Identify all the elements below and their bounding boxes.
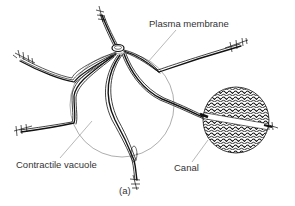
contractile-vacuole-diagram: Plasma membrane Contractile vacuole Cana… <box>0 0 295 206</box>
leader-plasma-membrane <box>148 30 176 62</box>
figure-caption: (a) <box>119 185 131 196</box>
canal-arm-right-lower <box>122 54 206 119</box>
leader-canal <box>192 140 208 162</box>
canal-arm-upper-left <box>20 52 116 83</box>
label-plasma-membrane: Plasma membrane <box>149 19 229 29</box>
diagram-illustration <box>0 0 295 206</box>
canal-arm-upper-right <box>124 44 241 73</box>
label-contractile-vacuole: Contractile vacuole <box>16 160 97 170</box>
pore <box>112 45 124 52</box>
leader-contractile-vacuole <box>60 121 92 158</box>
canal-arms <box>20 14 241 180</box>
label-canal: Canal <box>174 163 199 173</box>
magnified-canal-section <box>200 84 275 159</box>
canal-arm-up <box>100 14 119 48</box>
canal-arm-down <box>105 55 137 180</box>
leader-lines <box>60 30 208 162</box>
